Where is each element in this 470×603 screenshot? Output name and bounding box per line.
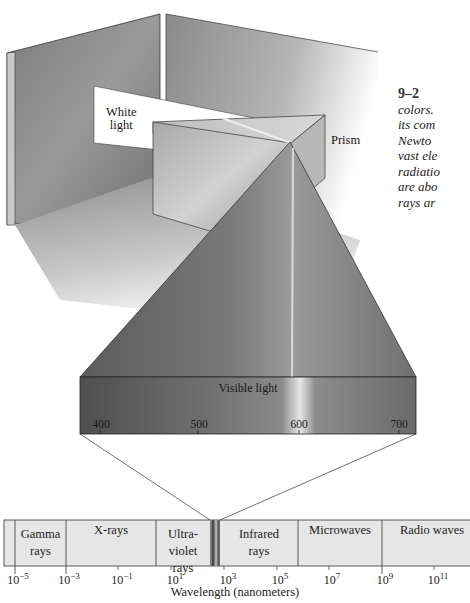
figure-caption: 9–2 colors. its com Newto vast ele radia… xyxy=(398,86,440,210)
prism-label: Prism xyxy=(331,134,360,147)
tick-1e7: 107 xyxy=(324,571,341,588)
zoom-line-right xyxy=(220,434,416,520)
visible-tick-500: 500 xyxy=(190,418,207,430)
zoom-line-left xyxy=(80,434,210,520)
caption-line: are abo xyxy=(398,179,440,195)
electromagnetic-spectrum-diagram: White light Prism Visible light 400 500 … xyxy=(0,0,470,603)
tick-1e-1: 10−1 xyxy=(111,571,133,588)
visible-light-label: Visible light xyxy=(80,382,416,395)
white-light-label: White light xyxy=(106,106,137,132)
caption-line: rays ar xyxy=(398,195,440,211)
region-radio-waves: Radio waves xyxy=(382,520,470,566)
region-microwaves: Microwaves xyxy=(298,520,382,566)
region-gamma-rays: Gammarays xyxy=(15,520,66,566)
region-ultraviolet-rays: Ultra-violetrays xyxy=(156,520,210,566)
caption-line: its com xyxy=(398,117,440,133)
visible-tick-700: 700 xyxy=(390,418,407,430)
region-x-rays: X-rays xyxy=(66,520,156,566)
tick-1e11: 1011 xyxy=(428,571,449,588)
caption-line: radiatio xyxy=(398,164,440,180)
caption-line: colors. xyxy=(398,102,440,118)
caption-line: Newto xyxy=(398,133,440,149)
figure-number: 9–2 xyxy=(398,86,440,102)
caption-line: vast ele xyxy=(398,148,440,164)
tick-1e9: 109 xyxy=(377,571,394,588)
visible-tick-600: 600 xyxy=(290,418,307,430)
visible-tick-400: 400 xyxy=(92,418,109,430)
tick-1e-5: 10−5 xyxy=(7,571,29,588)
white-light-label-line2: light xyxy=(106,119,137,132)
axis-label: Wavelength (nanometers) xyxy=(160,586,310,599)
region-infrared-rays: Infraredrays xyxy=(220,520,298,566)
tick-1e-3: 10−3 xyxy=(58,571,80,588)
